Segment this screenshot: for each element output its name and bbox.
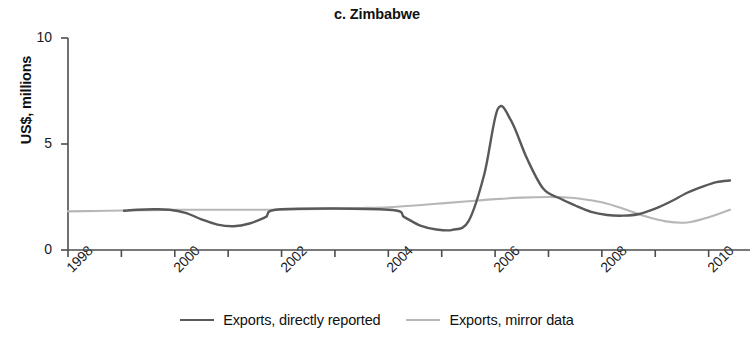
chart-figure: c. Zimbabwe US$, millions 0510 199820002…	[0, 0, 754, 342]
legend-label: Exports, mirror data	[449, 312, 573, 328]
chart-legend: Exports, directly reportedExports, mirro…	[0, 312, 754, 328]
legend-label: Exports, directly reported	[223, 312, 380, 328]
legend-line-swatch	[406, 319, 440, 321]
plot-area	[0, 0, 754, 342]
series-line-directly-reported	[124, 106, 730, 231]
legend-item[interactable]: Exports, directly reported	[180, 312, 380, 328]
legend-line-swatch	[180, 319, 214, 321]
legend-item[interactable]: Exports, mirror data	[406, 312, 573, 328]
